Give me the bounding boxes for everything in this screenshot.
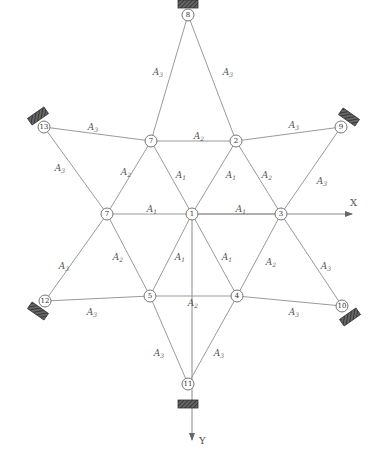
fixed-support-icon	[178, 0, 198, 8]
member-9-3	[281, 127, 341, 214]
area-label: A3	[288, 307, 300, 318]
area-label: A2	[120, 167, 132, 178]
node-label: 3	[279, 210, 283, 218]
node-label: 2	[234, 137, 238, 145]
area-label: A3	[320, 261, 332, 272]
node-label: 7	[149, 137, 153, 145]
supports	[28, 0, 361, 408]
area-label: A1	[174, 252, 185, 263]
x-axis-label: X	[350, 197, 358, 208]
area-label: A3	[153, 348, 165, 359]
area-label: A1	[225, 170, 236, 181]
node-label: 4	[235, 292, 240, 300]
node-label: 5	[148, 292, 152, 300]
area-label: A3	[87, 122, 99, 133]
node-n8: 8	[182, 9, 194, 21]
node-label: 12	[41, 297, 50, 305]
node-label: 7	[105, 210, 109, 218]
member-2-3	[236, 141, 281, 214]
member-5-11	[150, 296, 188, 384]
node-label: 1	[190, 210, 194, 218]
area-label: A1	[146, 204, 157, 215]
area-label: A3	[316, 176, 328, 187]
member-12-5	[45, 296, 150, 301]
axes: X Y	[192, 197, 358, 446]
node-n6: 7	[145, 135, 157, 147]
node-n4: 4	[231, 290, 243, 302]
area-label: A2	[187, 298, 199, 309]
node-label: 11	[184, 380, 193, 388]
nodes: 12345778910111213	[38, 9, 348, 390]
area-label: A3	[213, 348, 225, 359]
area-label: A2	[193, 131, 205, 142]
fixed-support-icon	[178, 400, 198, 408]
member-13-7	[44, 127, 107, 214]
node-n10: 10	[336, 300, 348, 312]
member-7-7	[107, 141, 151, 214]
node-n7: 7	[101, 208, 113, 220]
member-7-12	[45, 214, 107, 301]
node-n2: 2	[230, 135, 242, 147]
node-n5: 5	[144, 290, 156, 302]
node-label: 8	[186, 11, 190, 19]
member-3-10	[281, 214, 342, 306]
member-8-2	[188, 15, 236, 141]
area-label: A3	[222, 67, 234, 78]
area-label: A1	[235, 204, 246, 215]
area-label: A3	[54, 163, 66, 174]
node-n11: 11	[182, 378, 194, 390]
area-label: A1	[175, 170, 186, 181]
node-n12: 12	[39, 295, 51, 307]
member-4-11	[188, 296, 237, 384]
node-n3: 3	[275, 208, 287, 220]
area-label: A3	[86, 307, 98, 318]
member-8-7	[151, 15, 188, 141]
node-n9: 9	[335, 121, 347, 133]
area-label: A2	[261, 170, 273, 181]
truss-diagram: X Y A3A3A3A2A3A3A2A1A1A2A3A1A1A3A2A1A1A2…	[0, 0, 383, 474]
member-3-4	[237, 214, 281, 296]
node-n1: 1	[186, 208, 198, 220]
member-4-10	[237, 296, 342, 306]
node-n13: 13	[38, 121, 50, 133]
node-label: 10	[338, 302, 347, 310]
member-1-5	[150, 214, 192, 296]
area-label: A2	[112, 252, 124, 263]
area-label: A2	[265, 257, 277, 268]
area-label: A3	[288, 120, 300, 131]
node-label: 9	[339, 123, 343, 131]
members	[44, 15, 342, 384]
area-label: A1	[221, 252, 232, 263]
node-label: 13	[40, 123, 49, 131]
area-label: A3	[152, 67, 164, 78]
area-label: A3	[58, 261, 70, 272]
y-axis-label: Y	[198, 435, 206, 446]
